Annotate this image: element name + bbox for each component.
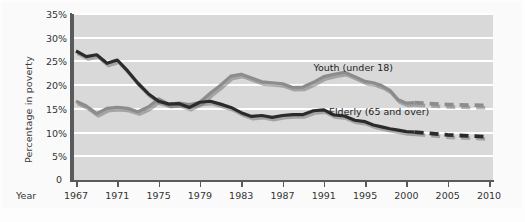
x-tick-mark: [159, 180, 161, 187]
y-tick-label: 20%: [46, 80, 67, 91]
x-tick-mark: [76, 180, 78, 187]
x-tick-label: 2005: [436, 190, 460, 201]
x-tick-mark: [406, 180, 408, 187]
x-tick-mark: [448, 180, 450, 187]
x-tick-mark: [324, 180, 326, 187]
x-tick-label: 2000: [394, 190, 418, 201]
y-tick-label: 25%: [46, 56, 67, 67]
x-tick-label: 1967: [64, 190, 88, 201]
chart-page: Percentage in poverty 35%30%25%20%15%10%…: [0, 0, 525, 222]
x-tick-mark: [489, 180, 491, 187]
x-tick-label: 1983: [229, 190, 253, 201]
y-tick-labels: 35%30%25%20%15%10%5%: [22, 0, 67, 222]
series-label: Youth (under 18): [313, 62, 392, 73]
x-axis-title: Year: [16, 190, 36, 201]
y-tick-label: 30%: [46, 32, 67, 43]
y-tick-label: 5%: [52, 151, 67, 162]
x-tick-label: 1987: [270, 190, 294, 201]
y-axis-line: [70, 13, 72, 181]
x-tick-mark: [241, 180, 243, 187]
series-line[interactable]: [415, 132, 489, 137]
series-canvas: [72, 14, 493, 180]
series-line[interactable]: [415, 103, 489, 106]
series-label: Elderly (65 and over): [329, 106, 429, 117]
plot-area: [72, 14, 493, 180]
x-tick-label: 1991: [312, 190, 336, 201]
y-tick-label: 35%: [46, 9, 67, 20]
x-tick-mark: [117, 180, 119, 187]
x-tick-mark: [283, 180, 285, 187]
x-tick-label: 2010: [477, 190, 501, 201]
y-tick-label: 10%: [46, 127, 67, 138]
x-tick-label: 1979: [188, 190, 212, 201]
x-tick-label: 1971: [105, 190, 129, 201]
x-tick-label: 1975: [147, 190, 171, 201]
x-tick-mark: [200, 180, 202, 187]
x-tick-label: 1995: [353, 190, 377, 201]
y-tick-label: 15%: [46, 103, 67, 114]
y-tick-zero: 0: [56, 174, 62, 185]
x-tick-mark: [365, 180, 367, 187]
